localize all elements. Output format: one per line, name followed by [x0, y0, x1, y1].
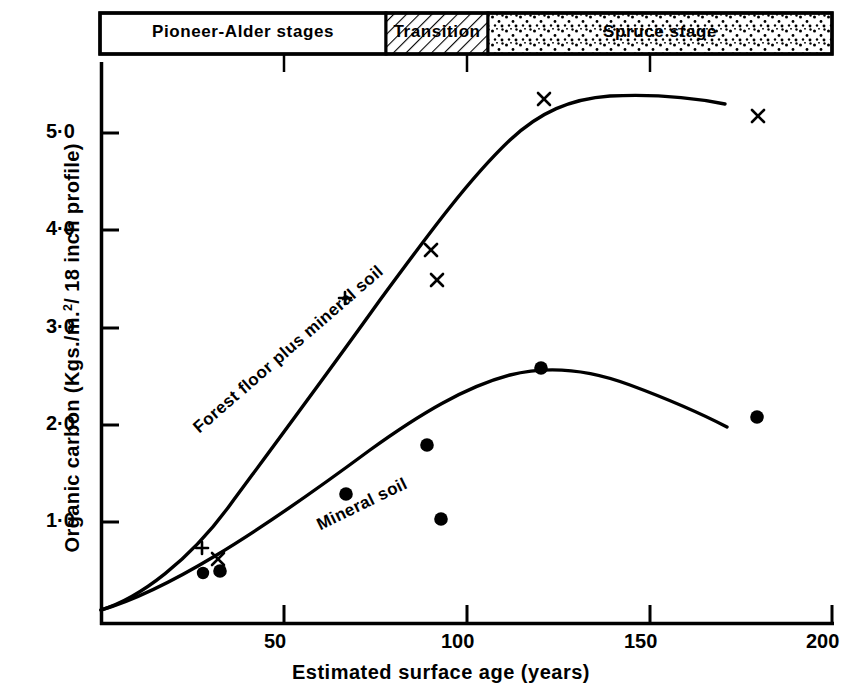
- marker-circle: [534, 361, 548, 375]
- x-tick-label-150: 150: [624, 630, 657, 653]
- markers-forest-floor-plus-mineral-soil: [196, 93, 764, 565]
- curve-mineral-soil: [101, 370, 727, 610]
- marker-circle: [197, 567, 209, 579]
- x-axis-title: Estimated surface age (years): [292, 661, 590, 684]
- stage-band-group: [100, 13, 832, 54]
- y-axis-title-part-2: / 18 inch profile): [61, 143, 83, 304]
- markers-mineral-soil: [197, 361, 764, 579]
- curve-forest-floor-plus-mineral-soil: [101, 95, 725, 610]
- y-tick-marks: [101, 133, 119, 522]
- marker-x: [431, 274, 443, 286]
- stage-band-pioneer-alder: [100, 13, 386, 54]
- y-axis-title: Organic carbon (Kgs./m.2/ 18 inch profil…: [60, 108, 84, 588]
- x-tick-marks: [284, 605, 832, 623]
- stage-band-spruce: [488, 13, 832, 54]
- marker-circle: [213, 564, 227, 578]
- marker-x: [538, 93, 550, 105]
- plot-area: [0, 0, 860, 687]
- x-tick-label-50: 50: [264, 630, 286, 653]
- y-axis-title-superscript: 2: [60, 304, 74, 311]
- chart-figure: Pioneer-Alder stages Transition Spruce s…: [0, 0, 860, 687]
- x-tick-label-200: 200: [806, 630, 839, 653]
- stage-band-transition: [386, 13, 488, 54]
- marker-circle: [420, 438, 434, 452]
- marker-circle: [339, 487, 353, 501]
- marker-x: [425, 244, 437, 256]
- marker-circle: [750, 410, 764, 424]
- marker-plus: [339, 292, 351, 304]
- marker-circle: [434, 512, 448, 526]
- marker-x: [752, 110, 764, 122]
- y-axis-title-part-1: Organic carbon (Kgs./m.: [61, 311, 83, 552]
- x-tick-label-100: 100: [441, 630, 474, 653]
- stage-band-ticks: [284, 55, 650, 72]
